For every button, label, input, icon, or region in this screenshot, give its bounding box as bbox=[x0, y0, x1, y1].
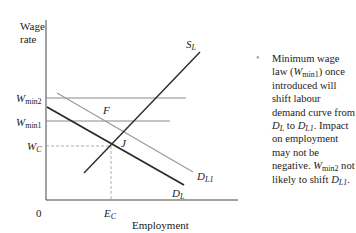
supply-curve bbox=[84, 52, 200, 173]
dl1-main: D bbox=[197, 170, 205, 182]
supply-curve-label: SL bbox=[186, 38, 196, 50]
wmin2-sub: min2 bbox=[25, 97, 41, 106]
note-p4-sub: min2 bbox=[322, 164, 338, 173]
wc-sub: C bbox=[36, 145, 41, 154]
note-p2-d: D bbox=[272, 120, 280, 131]
origin-label: 0 bbox=[36, 207, 42, 219]
ec-sub: C bbox=[111, 212, 116, 221]
demand-shifted-label: DL1 bbox=[197, 170, 213, 182]
point-j-label: J bbox=[121, 137, 126, 149]
y-axis-label: Wage rate bbox=[20, 20, 45, 46]
wc-tick-label: WC bbox=[27, 140, 42, 152]
y-axis-label-line1: Wage bbox=[20, 20, 45, 33]
dl1-sub: L1 bbox=[205, 175, 213, 184]
note-p3-sub: L1 bbox=[305, 124, 313, 133]
point-f-label: F bbox=[103, 104, 110, 116]
note-p1-w: W bbox=[293, 66, 302, 77]
dl-main: D bbox=[172, 187, 180, 199]
ec-main: E bbox=[104, 207, 111, 219]
demand-curve-shifted bbox=[57, 93, 193, 172]
wmin1-sub: min1 bbox=[25, 121, 41, 130]
wmin2-tick-label: Wmin2 bbox=[16, 92, 42, 104]
ec-tick-label: EC bbox=[104, 207, 116, 219]
note-p5-sub: L1 bbox=[339, 178, 347, 187]
wc-main: W bbox=[27, 140, 36, 152]
sl-sub: L bbox=[192, 43, 196, 52]
demand-curve-label: DL bbox=[172, 187, 184, 199]
note-p3: to bbox=[284, 120, 298, 131]
dl-sub: L bbox=[180, 192, 184, 201]
note-p6: . bbox=[347, 174, 350, 185]
wmin1-main: W bbox=[16, 116, 25, 128]
y-axis-label-line2: rate bbox=[20, 33, 45, 46]
note-p5-d: D bbox=[331, 174, 339, 185]
x-axis-label: Employment bbox=[132, 219, 189, 231]
note-p4-w: W bbox=[313, 160, 322, 171]
note-p1-sub: min1 bbox=[302, 70, 318, 79]
note-bullet: • bbox=[256, 52, 260, 63]
wmin2-main: W bbox=[16, 92, 25, 104]
wmin1-tick-label: Wmin1 bbox=[16, 116, 42, 128]
note-text: Minimum wage law (Wmin1) once introduced… bbox=[272, 52, 356, 186]
